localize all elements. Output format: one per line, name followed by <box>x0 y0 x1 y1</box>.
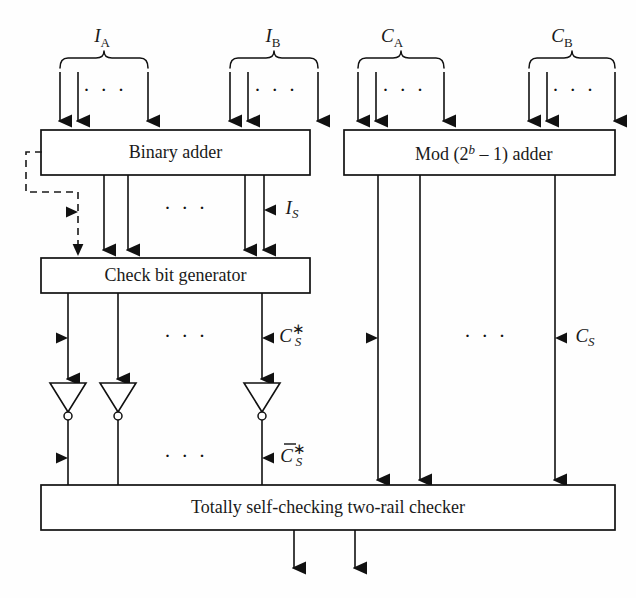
inverter-3[interactable] <box>244 383 280 420</box>
ellipsis-CB-top: · · · <box>552 78 596 102</box>
ellipsis-inverter-out: · · · <box>164 444 208 468</box>
inverter-1-triangle <box>50 383 86 412</box>
mod-adder-label: Mod (2b – 1) adder <box>415 142 552 165</box>
signal-label-IS: IS <box>264 197 299 221</box>
binary-adder-label: Binary adder <box>129 142 222 162</box>
cs-label-text: CS <box>575 325 595 349</box>
check-bit-generator-label: Check bit generator <box>105 265 247 285</box>
group-label-CA: CA <box>381 25 404 50</box>
inverter-3-bubble-icon <box>258 412 266 420</box>
inverter-2[interactable] <box>100 383 136 420</box>
ellipsis-right-mid: · · · <box>464 324 508 348</box>
group-label-CB: CB <box>551 25 573 50</box>
block-two-rail-checker[interactable]: Totally self-checking two-rail checker <box>41 485 615 530</box>
input-group-CA: CA <box>358 25 444 68</box>
ellipsis-adder-out: · · · <box>164 196 208 220</box>
brace-CB <box>529 51 615 68</box>
csbarstar-label-text: C∗S <box>280 441 306 469</box>
block-binary-adder[interactable]: Binary adder <box>41 130 310 175</box>
ellipsis-IA-top: · · · <box>83 78 127 102</box>
input-group-IB: IB <box>230 25 318 68</box>
is-pointer-icon <box>264 205 276 216</box>
csbarstar-pointer-icon <box>262 453 274 464</box>
inverter-2-bubble-icon <box>114 412 122 420</box>
wires-inverters-to-checker <box>56 420 262 485</box>
ellipsis-cbg-out: · · · <box>164 324 208 348</box>
inverter-2-triangle <box>100 383 136 412</box>
feedback-endarrow-icon <box>73 244 84 256</box>
mod-tick-arrow-icon <box>366 333 378 344</box>
inverter-3-triangle <box>244 383 280 412</box>
block-check-bit-generator[interactable]: Check bit generator <box>41 258 310 293</box>
block-diagram-figure: IA IB CA CB <box>0 0 636 598</box>
csstar-label-text: C∗S <box>279 321 305 349</box>
diagram-canvas: IA IB CA CB <box>0 0 636 598</box>
csstar-pointer-icon <box>262 333 274 344</box>
input-group-IA: IA <box>60 25 148 68</box>
brace-CA <box>358 51 444 68</box>
ellipsis-IB-top: · · · <box>254 78 298 102</box>
cs-pointer-icon <box>555 333 567 344</box>
inv-tick-arrow-icon <box>56 453 68 464</box>
wires-modadder-to-checker <box>366 175 555 480</box>
group-label-IB: IB <box>265 25 281 50</box>
inverter-1[interactable] <box>50 383 86 420</box>
two-rail-checker-label: Totally self-checking two-rail checker <box>191 497 465 517</box>
input-group-CB: CB <box>529 25 615 68</box>
inverter-1-bubble-icon <box>64 412 72 420</box>
wires-cbg-to-inverters <box>56 293 262 379</box>
signal-label-CS: CS <box>555 325 595 349</box>
group-label-IA: IA <box>93 25 110 50</box>
cbg-tick-arrow-icon <box>56 333 68 344</box>
is-label-text: IS <box>285 197 299 221</box>
feedback-midarrow-icon <box>66 207 78 218</box>
brace-IB <box>230 51 318 68</box>
brace-IA <box>60 51 148 68</box>
block-mod-adder[interactable]: Mod (2b – 1) adder <box>344 130 615 175</box>
checker-outputs <box>294 530 355 568</box>
signal-label-CS-bar-star: C∗S <box>262 441 306 469</box>
ellipsis-CA-top: · · · <box>382 78 426 102</box>
signal-label-CS-star: C∗S <box>262 321 305 349</box>
